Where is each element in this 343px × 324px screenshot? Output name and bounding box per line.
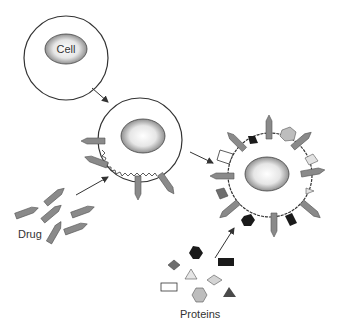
drug-label: Drug <box>18 228 42 240</box>
cell-with-drug <box>81 98 182 200</box>
cell-drug-protein-diagram: Cell Drug <box>0 0 343 324</box>
protein-rect-white <box>161 283 177 291</box>
protein-triangle-dark <box>223 287 236 297</box>
protein-diamond-light <box>207 275 222 285</box>
protein-hexagon-dark <box>241 214 255 226</box>
protein-rect-dark <box>285 213 297 226</box>
cell-plain: Cell <box>24 16 108 100</box>
cell-with-drug-and-proteins <box>210 115 325 237</box>
arrow-icon <box>76 177 108 195</box>
protein-hexagon-dark <box>189 246 203 259</box>
cell-label: Cell <box>57 43 76 55</box>
protein-hexagon <box>192 288 207 302</box>
protein-triangle-light <box>185 269 197 279</box>
nucleus <box>245 157 289 191</box>
arrow-icon <box>215 228 234 258</box>
protein-diamond-medium <box>168 260 180 270</box>
arrow-icon <box>92 88 108 102</box>
arrow-icon <box>190 152 213 163</box>
protein-diamond-medium <box>216 188 228 199</box>
nucleus <box>121 119 165 153</box>
protein-molecules: Proteins <box>161 246 236 320</box>
proteins-label: Proteins <box>180 308 221 320</box>
protein-rect-dark <box>218 258 234 266</box>
drug-molecules: Drug <box>15 186 96 244</box>
